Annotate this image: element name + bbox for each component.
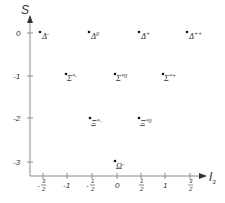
x-axis-label: I3 — [209, 170, 216, 185]
particle-omega-minus: Ω- — [114, 160, 124, 171]
svg-text:Δ-: Δ- — [41, 31, 49, 41]
svg-text:2: 2 — [90, 186, 95, 192]
decuplet-diagram: S I3 0 -1 -2 -3 - 3 2 -1 - 1 2 0 1 2 1 — [0, 0, 225, 203]
particle-xi-star-minus: Ξ*- — [89, 117, 102, 128]
svg-text:1: 1 — [140, 178, 143, 184]
x-tick-label-1-2: 1 2 — [139, 178, 144, 192]
svg-text:Δ++: Δ++ — [188, 31, 202, 41]
svg-text:2: 2 — [41, 186, 46, 192]
particle-delta-plus: Δ+ — [138, 31, 150, 41]
y-tick-label: -1 — [13, 72, 20, 81]
particle-delta-plus-plus: Δ++ — [186, 31, 202, 41]
particle-delta-minus: Δ- — [39, 31, 49, 41]
svg-text:3: 3 — [42, 178, 46, 184]
svg-text:Δ+: Δ+ — [140, 31, 150, 41]
svg-text:-: - — [86, 181, 89, 190]
particle-xi-star-zero: Ξ*0 — [138, 117, 152, 128]
svg-text:Ξ*-: Ξ*- — [91, 118, 101, 128]
svg-text:Ω-: Ω- — [116, 161, 124, 171]
x-tick-label-neg-3-2: - 3 2 — [37, 178, 46, 192]
x-tick-label-neg-1-2: - 1 2 — [86, 178, 95, 192]
particle-sigma-star-minus: Σ*- — [65, 73, 77, 83]
particle-sigma-star-plus: Σ*+ — [162, 73, 176, 83]
svg-text:Σ*-: Σ*- — [66, 73, 77, 83]
svg-text:2: 2 — [188, 186, 193, 192]
svg-text:Σ*+: Σ*+ — [163, 73, 176, 83]
particle-delta-zero: Δ0 — [88, 31, 99, 41]
x-tick-label-0: 0 — [115, 181, 120, 190]
y-axis-label: S — [21, 3, 29, 17]
particle-sigma-star-zero: Σ*0 — [114, 73, 127, 83]
y-tick-label: -3 — [13, 158, 21, 167]
svg-text:2: 2 — [139, 186, 144, 192]
svg-text:Ξ*0: Ξ*0 — [140, 118, 151, 128]
x-tick-label-neg-1: -1 — [63, 181, 70, 190]
x-tick-label-1: 1 — [163, 181, 167, 190]
y-tick-label: 0 — [16, 29, 21, 38]
svg-text:-: - — [37, 181, 40, 190]
svg-text:1: 1 — [91, 178, 94, 184]
svg-text:Σ*0: Σ*0 — [115, 73, 127, 83]
svg-text:Δ0: Δ0 — [90, 31, 99, 41]
x-tick-label-3-2: 3 2 — [188, 178, 193, 192]
svg-text:3: 3 — [189, 178, 193, 184]
y-tick-label: -2 — [13, 114, 21, 123]
